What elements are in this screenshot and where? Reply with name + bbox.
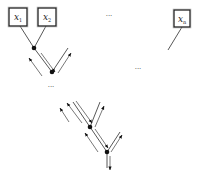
ellipsis-mid: ··· — [48, 83, 55, 91]
factor-tree-diagram: x1x2xn ········· — [0, 0, 200, 174]
message-arrow-icon — [60, 108, 69, 122]
message-arrow-icon — [41, 53, 55, 72]
ellipses: ········· — [48, 12, 142, 91]
message-arrow-icon — [58, 53, 71, 73]
edge-line — [90, 127, 107, 152]
factor-node — [88, 125, 93, 130]
edge-line — [90, 102, 100, 127]
message-arrow-icon — [95, 106, 104, 127]
ellipsis-right: ··· — [135, 65, 142, 73]
message-arrow-icon — [95, 129, 108, 148]
ellipsis-top: ··· — [106, 12, 113, 20]
edge-line — [168, 27, 182, 50]
factor-node — [32, 46, 37, 51]
variable-box-x1: x1 — [8, 7, 28, 27]
factor-node — [105, 150, 110, 155]
edge-line — [107, 132, 120, 152]
edge-line — [34, 26, 46, 48]
factor-node — [50, 70, 55, 75]
message-arrow-icon — [29, 58, 42, 76]
edge-line — [20, 26, 34, 48]
message-arrow-icon — [76, 101, 92, 123]
edge-line — [52, 48, 68, 72]
edges — [20, 26, 182, 168]
variable-boxes: x1x2xn — [8, 7, 191, 28]
variable-box-x2: x2 — [37, 7, 57, 27]
variable-box-xn: xn — [173, 9, 191, 28]
